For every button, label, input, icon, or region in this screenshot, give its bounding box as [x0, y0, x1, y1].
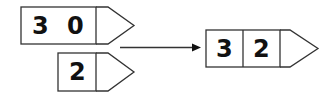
digit: 2 — [69, 58, 86, 86]
digit: 3 — [216, 35, 233, 63]
digit: 2 — [253, 35, 270, 63]
digit: 3 — [32, 12, 49, 40]
place-value-diagram: 3 0 2 3 2 — [0, 0, 334, 102]
arrow-head-icon — [192, 44, 201, 52]
digit: 0 — [67, 12, 84, 40]
